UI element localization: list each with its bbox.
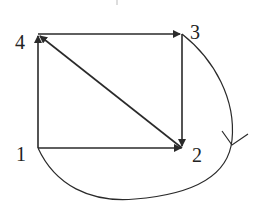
node-label-1: 1 xyxy=(16,144,26,164)
graph-diagram: 4 3 2 1 xyxy=(0,0,266,215)
node-label-3: 3 xyxy=(190,22,200,42)
curve-arrow-icon xyxy=(222,131,248,145)
edge-2-4 xyxy=(40,36,182,148)
graph-edges xyxy=(0,0,266,215)
node-label-4: 4 xyxy=(15,32,25,52)
node-label-2: 2 xyxy=(192,145,202,165)
edge-3-1-curve xyxy=(38,34,232,200)
